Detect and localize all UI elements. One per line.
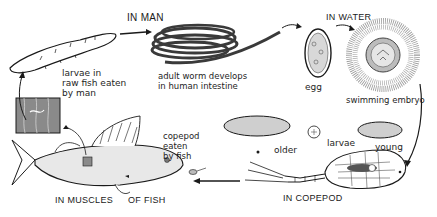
dot-marker — [257, 151, 260, 154]
larva-in-raw-fish-drawing — [10, 33, 116, 72]
label-larvae-raw-fish: larvae in raw fish eaten by man — [62, 68, 126, 98]
copepod-drawing — [245, 150, 406, 188]
label-swimming-embryo: swimming embryo — [346, 95, 425, 105]
label-larvae: larvae — [327, 138, 355, 148]
swimming-embryo-drawing — [349, 21, 417, 89]
label-copepod-eaten: copepod eaten by fish — [163, 131, 200, 161]
label-young: young — [375, 142, 403, 152]
muscle-inset-drawing — [16, 98, 60, 133]
adult-worm-drawing — [152, 25, 280, 63]
older-larva-drawing — [224, 116, 320, 138]
egg-drawing — [305, 29, 331, 77]
arrow-egg-to-embryo — [336, 25, 355, 31]
young-larva-drawing — [358, 122, 402, 138]
stage-label-in-man: IN MAN — [127, 12, 164, 23]
stage-label-in-water: IN WATER — [326, 12, 371, 22]
label-egg: egg — [305, 82, 322, 92]
arrow-worm-to-egg — [282, 23, 302, 29]
stage-label-of-fish: OF FISH — [128, 195, 166, 205]
arrow-larva-to-worm — [120, 29, 152, 35]
stage-label-in-copepod: IN COPEPOD — [283, 193, 343, 203]
arrow-copepod-to-fish — [193, 178, 240, 184]
label-adult-worm: adult worm develops in human intestine — [158, 71, 247, 91]
small-copepod-drawing — [189, 168, 206, 175]
stage-label-in-muscles: IN MUSCLES — [55, 195, 113, 205]
label-older: older — [274, 145, 297, 155]
life-cycle-illustration — [0, 0, 437, 217]
